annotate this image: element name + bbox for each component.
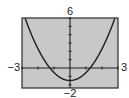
ymax-label: 6 — [67, 5, 73, 17]
ymin-label: −2 — [64, 87, 77, 98]
calculator-graph: 6 −2 −3 3 — [0, 0, 129, 98]
xmin-label: −3 — [7, 61, 20, 73]
xmax-label: 3 — [121, 61, 127, 73]
